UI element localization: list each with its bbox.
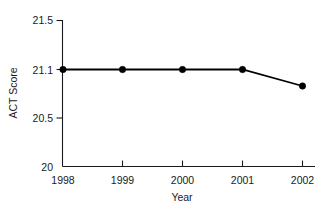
data-point-2002	[299, 83, 305, 89]
data-point-1998	[60, 66, 66, 72]
y-axis-title: ACT Score	[7, 67, 19, 118]
x-tick-label-2000: 2000	[171, 174, 195, 186]
x-tick-label-1999: 1999	[111, 174, 135, 186]
data-point-2001	[239, 66, 245, 72]
y-tick-label-21-5: 21.5	[33, 14, 54, 26]
x-tick-label-2001: 2001	[231, 174, 255, 186]
chart-page: 21.5 21.1 20.5 20 1998 1999 2000 2001 20…	[0, 0, 336, 210]
y-tick-label-20-5: 20.5	[33, 112, 54, 124]
x-tick-label-1998: 1998	[51, 174, 75, 186]
x-tick-label-2002: 2002	[291, 174, 315, 186]
line-chart: 21.5 21.1 20.5 20 1998 1999 2000 2001 20…	[0, 0, 336, 210]
y-tick-label-21-1: 21.1	[33, 64, 54, 76]
y-tick-label-20: 20	[41, 161, 53, 173]
data-point-1999	[119, 66, 125, 72]
x-axis-title: Year	[171, 191, 193, 203]
data-point-2000	[179, 66, 185, 72]
